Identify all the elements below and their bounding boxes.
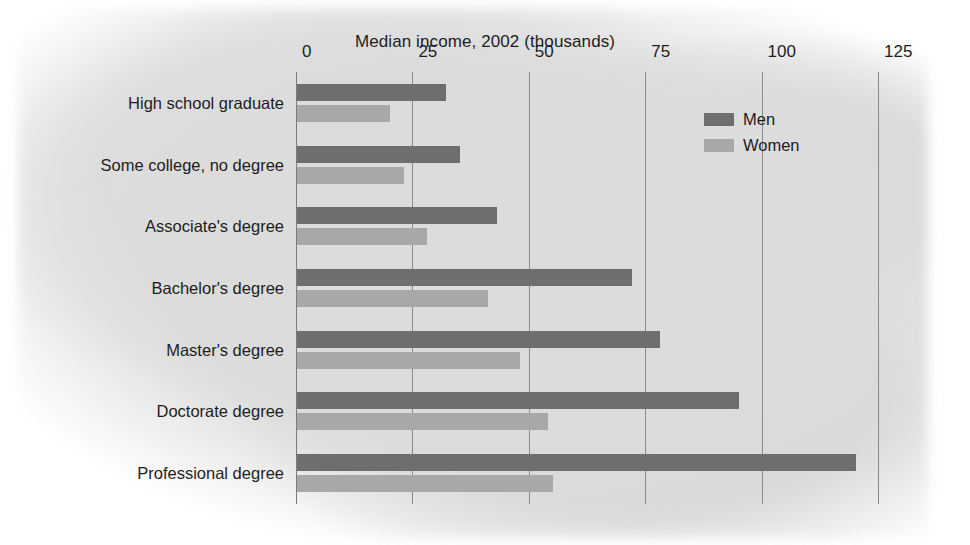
x-tick-label-25: 25 <box>412 42 437 62</box>
bar-women <box>297 475 553 492</box>
bar-women <box>297 228 427 245</box>
bar-women <box>297 413 548 430</box>
category-label: Associate's degree <box>145 218 284 235</box>
chart-title: Median income, 2002 (thousands) <box>0 32 970 52</box>
x-tick-label-50: 50 <box>529 42 554 62</box>
bar-men <box>297 392 739 409</box>
x-tick-label-100: 100 <box>762 42 796 62</box>
men-swatch-icon <box>704 113 734 126</box>
bar-women <box>297 105 390 122</box>
category-label: Master's degree <box>166 342 284 359</box>
chart-legend: Men Women <box>704 106 844 158</box>
bar-chart: Median income, 2002 (thousands) 02550751… <box>0 0 970 545</box>
x-tick-label-125: 125 <box>878 42 912 62</box>
legend-label-women: Women <box>743 136 800 155</box>
chart-page: Median income, 2002 (thousands) 02550751… <box>0 0 970 545</box>
gridline-125 <box>878 72 879 504</box>
bar-row: Professional degree <box>296 442 878 504</box>
category-label: High school graduate <box>128 95 284 112</box>
x-tick-label-0: 0 <box>296 42 311 62</box>
bar-women <box>297 290 488 307</box>
bar-men <box>297 146 460 163</box>
bar-row: Master's degree <box>296 319 878 381</box>
bar-women <box>297 167 404 184</box>
bar-men <box>297 269 632 286</box>
women-swatch-icon <box>704 139 734 152</box>
legend-item-men: Men <box>704 106 844 132</box>
bar-men <box>297 331 660 348</box>
bar-row: Doctorate degree <box>296 381 878 443</box>
category-label: Doctorate degree <box>157 403 285 420</box>
x-tick-label-75: 75 <box>645 42 670 62</box>
bar-women <box>297 352 520 369</box>
category-label: Some college, no degree <box>101 157 284 174</box>
bar-men <box>297 84 446 101</box>
legend-label-men: Men <box>743 110 775 129</box>
category-label: Professional degree <box>137 465 284 482</box>
legend-item-women: Women <box>704 132 844 158</box>
bar-row: Bachelor's degree <box>296 257 878 319</box>
category-label: Bachelor's degree <box>152 280 284 297</box>
bar-row: Associate's degree <box>296 195 878 257</box>
bar-men <box>297 207 497 224</box>
bar-men <box>297 454 856 471</box>
